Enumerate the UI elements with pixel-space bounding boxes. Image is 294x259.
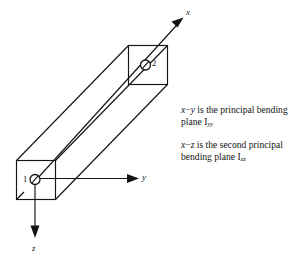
z-axis-arrowhead — [31, 226, 40, 239]
caption-block: x−y is the principal bending plane Iyy x… — [181, 104, 293, 165]
z-axis-label: z — [32, 244, 36, 253]
y-axis-arrowhead — [127, 174, 139, 183]
beam-axes-figure: 1 2 x y z x−y is the principal bending p… — [0, 0, 294, 259]
caption-second-principal-bending-plane: x−z is the second principal bending plan… — [181, 139, 293, 165]
caption-2-inertia-symbol: Izz — [237, 151, 245, 162]
beam-edge-bottom-left-stub — [17, 192, 25, 200]
node-1-label: 1 — [23, 175, 27, 184]
inertia-subscript-zz: zz — [241, 155, 246, 162]
x-axis-label: x — [186, 8, 190, 17]
caption-1-inertia-symbol: Iyy — [204, 116, 213, 127]
node-2-label: 2 — [152, 59, 156, 68]
beam-edge-bottom-right — [56, 85, 168, 200]
x-axis-arrowhead — [172, 18, 184, 28]
x-axis-line — [36, 22, 180, 181]
y-axis-label: y — [142, 173, 146, 182]
caption-1-body: is the principal bending plane — [181, 104, 288, 127]
caption-principal-bending-plane: x−y is the principal bending plane Iyy — [181, 104, 293, 130]
caption-2-body: is the second principal bending plane — [181, 139, 283, 162]
inertia-subscript-yy: yy — [207, 120, 213, 127]
